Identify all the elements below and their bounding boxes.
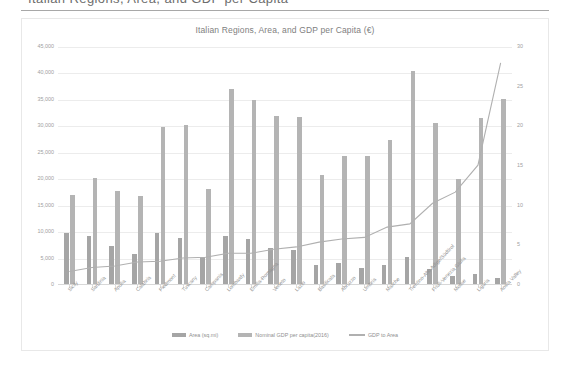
y2-axis-tick-label: 5	[517, 242, 520, 247]
y-axis-tick-label: 25,000	[38, 150, 55, 155]
y-axis-tick-label: 35,000	[38, 97, 55, 102]
legend-line-swatch	[349, 334, 365, 336]
y2-axis-tick-label: 0	[517, 282, 520, 287]
chart-legend: Area (sq.mi)Nominal GDP per capita(2016)…	[22, 332, 548, 338]
chart-title: Italian Regions, Area, and GDP per Capit…	[22, 25, 548, 35]
line-path-gdp-to-area	[69, 63, 500, 272]
y2-axis-tick-label: 25	[517, 84, 523, 89]
y-axis-tick-label: 40,000	[38, 70, 55, 75]
legend-item[interactable]: GDP to Area	[349, 332, 398, 338]
legend-color-swatch	[172, 333, 186, 337]
legend-item[interactable]: Nominal GDP per capita(2016)	[238, 332, 329, 338]
y-axis-tick-label: 15,000	[38, 203, 55, 208]
y-axis-tick-label: 30,000	[38, 123, 55, 128]
y-axis-tick-label: 5,000	[41, 256, 55, 261]
y-axis-tick-label: 0	[51, 282, 54, 287]
y-axis-tick-label: 45,000	[38, 44, 55, 49]
legend-label: Nominal GDP per capita(2016)	[255, 332, 329, 338]
y-axis-tick-label: 10,000	[38, 229, 55, 234]
y2-axis-tick-label: 15	[517, 163, 523, 168]
y-axis-tick-label: 20,000	[38, 176, 55, 181]
y2-axis-tick-label: 30	[517, 44, 523, 49]
plot-area: 05,00010,00015,00020,00025,00030,00035,0…	[58, 47, 512, 285]
legend-color-swatch	[238, 333, 252, 337]
y2-axis-tick-label: 10	[517, 203, 523, 208]
legend-item[interactable]: Area (sq.mi)	[172, 332, 218, 338]
legend-label: GDP to Area	[368, 332, 398, 338]
legend-label: Area (sq.mi)	[189, 332, 218, 338]
y2-axis-tick-label: 20	[517, 123, 523, 128]
page-header-strip: Italian Regions, Area, and GDP per Capit…	[0, 0, 571, 14]
chart-container: Italian Regions, Area, and GDP per Capit…	[21, 18, 549, 351]
header-divider	[21, 10, 549, 11]
clipped-header-text: Italian Regions, Area, and GDP per Capit…	[28, 0, 288, 6]
